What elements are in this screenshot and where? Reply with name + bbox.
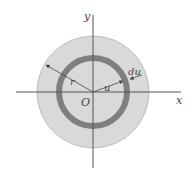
origin-label: O	[81, 96, 90, 109]
disk-diagram: y x O r u du	[0, 0, 196, 176]
x-axis-label: x	[176, 94, 183, 107]
y-axis-label: y	[83, 10, 91, 23]
ring-width-du-label: du	[128, 66, 141, 77]
radius-u-label: u	[104, 82, 110, 93]
